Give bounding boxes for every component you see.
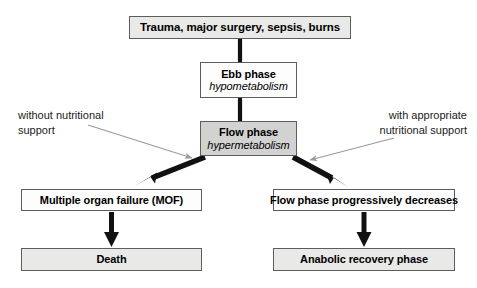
- node-trauma-title: Trauma, major surgery, sepsis, burns: [140, 21, 340, 34]
- node-trauma: Trauma, major surgery, sepsis, burns: [129, 16, 351, 39]
- connector-mof-to-death: [104, 212, 119, 247]
- node-flow-phase-title: Flow phase: [219, 126, 278, 138]
- connector-decrease-to-anabolic: [357, 212, 372, 247]
- node-multiple-organ-failure-title: Multiple organ failure (MOF): [40, 194, 183, 206]
- node-flow-phase-decreases-title: Flow phase progressively decreases: [270, 194, 458, 206]
- node-death-title: Death: [96, 253, 126, 265]
- node-multiple-organ-failure: Multiple organ failure (MOF): [21, 189, 202, 211]
- annotation-with-appropriate-nutritional-support: with appropriate nutritional support: [327, 108, 467, 138]
- node-flow-phase: Flow phase hypermetabolism: [200, 121, 297, 156]
- node-anabolic-recovery-phase: Anabolic recovery phase: [273, 248, 455, 271]
- connector-right-annotation-pointer: [310, 138, 394, 160]
- node-anabolic-recovery-phase-title: Anabolic recovery phase: [300, 253, 428, 265]
- connector-flow-to-mof: [135, 157, 205, 186]
- node-death: Death: [21, 248, 202, 271]
- node-ebb-phase: Ebb phase hypometabolism: [200, 62, 297, 98]
- connector-flow-to-decrease: [293, 157, 348, 187]
- node-ebb-phase-subtitle: hypometabolism: [209, 80, 288, 92]
- flowchart-diagram: Trauma, major surgery, sepsis, burns Ebb…: [0, 0, 477, 288]
- node-flow-phase-subtitle: hypermetabolism: [207, 139, 289, 151]
- annotation-without-nutritional-support: without nutritional support: [18, 108, 148, 138]
- node-flow-phase-decreases: Flow phase progressively decreases: [273, 189, 455, 211]
- node-ebb-phase-title: Ebb phase: [221, 68, 276, 80]
